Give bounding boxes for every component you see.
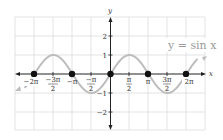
x-tick-3pi2-den: 2 [165,85,169,93]
curve-left-arrow-icon [15,86,21,91]
x-tick-pi: π [146,78,151,86]
y-tick-2: 2 [103,33,107,41]
point-2pi [183,71,189,77]
point-neg-pi [69,71,75,77]
sine-graph: x y 2 1 −1 −2 −2π −3π 2 [0,0,223,140]
x-tick-neg-pi2-den: 2 [89,85,93,93]
x-axis-left-arrow-icon [15,72,20,76]
point-pi [145,71,151,77]
x-tick-2pi: 2π [184,78,193,86]
x-tick-neg-pi: −π [67,78,78,86]
x-tick-neg-3pi2-num: −3π [46,76,61,84]
point-origin [107,71,113,77]
x-tick-pi2-den: 2 [127,85,131,93]
x-tick-labels: −2π −3π 2 −π −π 2 π 2 π 3π 2 2π [23,76,196,93]
y-axis-up-arrow-icon [109,17,113,22]
y-axis: y [107,7,113,130]
x-tick-3pi2-num: 3π [162,76,171,84]
x-tick-pi2-num: π [127,76,132,84]
x-tick-neg-pi2-num: −π [86,76,97,84]
curve-right-arrow-icon [202,56,207,61]
x-tick-neg-3pi2-den: 2 [51,85,55,93]
x-tick-neg-2pi: −2π [24,78,39,86]
y-tick-neg2: −2 [97,109,107,117]
y-axis-label: y [107,7,113,15]
point-neg-2pi [31,71,37,77]
function-label: y = sin x [167,39,217,52]
y-axis-down-arrow-icon [109,125,113,130]
x-axis-label: x [209,70,213,78]
y-tick-1: 1 [103,52,107,60]
